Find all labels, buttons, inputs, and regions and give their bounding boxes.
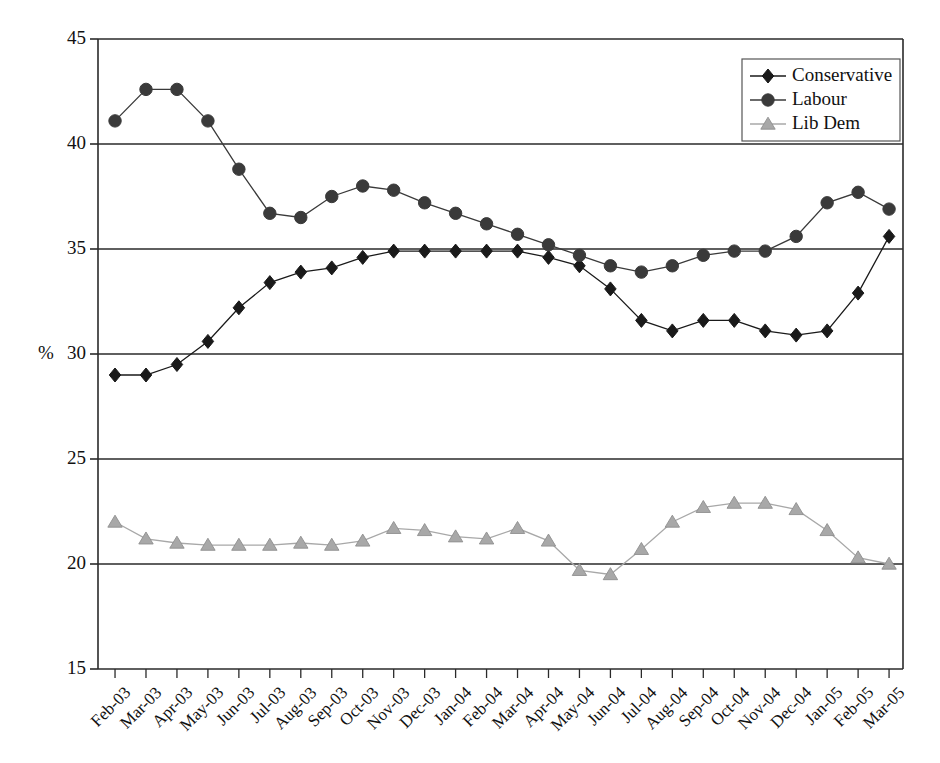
data-point (883, 229, 894, 243)
data-point (666, 260, 678, 272)
data-point (139, 532, 153, 544)
data-point (233, 163, 245, 175)
data-point (697, 249, 709, 261)
data-point (667, 324, 678, 338)
data-point (852, 186, 864, 198)
data-point (759, 245, 771, 257)
legend-label-conservative[interactable]: Conservative (792, 64, 892, 86)
data-point (758, 496, 772, 508)
y-tick-label: 30 (54, 342, 86, 364)
series-lib-dem (108, 496, 896, 579)
data-point (295, 265, 306, 279)
data-point (449, 207, 461, 219)
data-point (388, 244, 399, 258)
data-point (729, 313, 740, 327)
data-point (510, 521, 524, 533)
data-point (326, 261, 337, 275)
data-point (264, 207, 276, 219)
y-tick-label: 20 (54, 552, 86, 574)
data-point (356, 534, 370, 546)
y-tick-label: 40 (54, 132, 86, 154)
data-point (759, 324, 770, 338)
data-point (450, 244, 461, 258)
data-point (790, 328, 801, 342)
data-point (573, 249, 585, 261)
y-tick-label: 35 (54, 237, 86, 259)
data-point (109, 115, 121, 127)
data-point (294, 536, 308, 548)
data-point (326, 190, 338, 202)
data-point (635, 266, 647, 278)
data-point (357, 180, 369, 192)
y-tick-label: 25 (54, 447, 86, 469)
data-point (727, 496, 741, 508)
data-point (481, 244, 492, 258)
data-point (728, 245, 740, 257)
data-point (140, 368, 151, 382)
data-point (698, 313, 709, 327)
data-point (357, 250, 368, 264)
data-point (883, 203, 895, 215)
data-point (264, 276, 275, 290)
x-axis-ticks (115, 669, 889, 678)
data-point (386, 521, 400, 533)
data-point (419, 244, 430, 258)
data-point (543, 250, 554, 264)
series-conservative (109, 229, 895, 382)
data-point (604, 260, 616, 272)
y-axis-title: % (38, 342, 54, 364)
data-point (820, 524, 834, 536)
data-point (511, 228, 523, 240)
data-series (108, 83, 896, 579)
data-point (140, 83, 152, 95)
data-point (202, 115, 214, 127)
y-axis-ticks (90, 39, 98, 669)
data-point (295, 211, 307, 223)
legend-label-labour[interactable]: Labour (792, 88, 847, 110)
data-point (541, 534, 555, 546)
data-point (232, 538, 246, 550)
data-point (171, 83, 183, 95)
data-point (108, 515, 122, 527)
data-point (171, 358, 182, 372)
legend-marker-circle (762, 94, 774, 106)
y-tick-label: 15 (54, 657, 86, 679)
line-chart: % 15202530354045 Feb-03Mar-03Apr-03May-0… (0, 0, 940, 763)
data-point (387, 184, 399, 196)
y-tick-label: 45 (54, 27, 86, 49)
legend-label-lib-dem[interactable]: Lib Dem (792, 112, 860, 134)
data-point (790, 230, 802, 242)
data-point (665, 515, 679, 527)
data-point (821, 197, 833, 209)
data-point (109, 368, 120, 382)
data-point (418, 197, 430, 209)
data-point (542, 239, 554, 251)
data-point (480, 218, 492, 230)
data-point (512, 244, 523, 258)
